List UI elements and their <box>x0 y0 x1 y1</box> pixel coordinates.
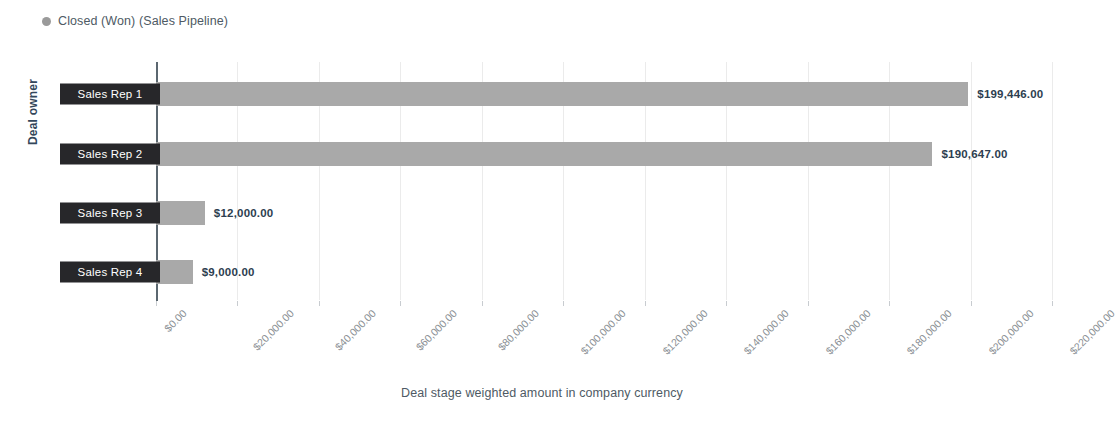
x-axis-tick <box>971 301 972 306</box>
y-axis-title: Deal owner <box>26 79 40 145</box>
category-label-badge[interactable]: Sales Rep 2 <box>60 144 160 165</box>
x-axis-tick-label: $60,000.00 <box>414 307 460 353</box>
x-axis-tick <box>889 301 890 306</box>
bar[interactable] <box>156 260 193 284</box>
x-axis-tick <box>726 301 727 306</box>
x-axis-tick <box>808 301 809 306</box>
x-axis-tick <box>400 301 401 306</box>
x-axis-tick <box>482 301 483 306</box>
x-axis-tick-label: $20,000.00 <box>251 307 297 353</box>
chart-legend[interactable]: Closed (Won) (Sales Pipeline) <box>42 12 228 30</box>
x-axis-tick-label: $140,000.00 <box>741 307 791 357</box>
x-axis-tick-label: $40,000.00 <box>332 307 378 353</box>
bar[interactable] <box>156 82 968 106</box>
x-axis-tick-label: $200,000.00 <box>986 307 1036 357</box>
x-axis-tick-label: $180,000.00 <box>904 307 954 357</box>
x-axis-tick-label: $80,000.00 <box>495 307 541 353</box>
gridline <box>971 62 972 300</box>
x-axis-tick-label: $100,000.00 <box>578 307 628 357</box>
x-axis-tick <box>1052 301 1053 306</box>
x-axis-tick-label: $120,000.00 <box>660 307 710 357</box>
x-axis-tick <box>645 301 646 306</box>
legend-dot-icon <box>42 17 51 26</box>
x-axis-tick <box>319 301 320 306</box>
category-label-badge[interactable]: Sales Rep 3 <box>60 203 160 224</box>
x-axis-tick-label: $220,000.00 <box>1067 307 1117 357</box>
bar[interactable] <box>156 201 205 225</box>
bar-value-label: $190,647.00 <box>941 148 1007 160</box>
x-axis-tick-label: $160,000.00 <box>823 307 873 357</box>
gridline <box>1052 62 1053 300</box>
legend-label: Closed (Won) (Sales Pipeline) <box>58 14 228 28</box>
bar-value-label: $9,000.00 <box>202 266 255 278</box>
x-axis-tick <box>237 301 238 306</box>
bar-value-label: $12,000.00 <box>214 207 274 219</box>
x-axis-tick <box>563 301 564 306</box>
category-label-badge[interactable]: Sales Rep 1 <box>60 84 160 105</box>
bar[interactable] <box>156 142 932 166</box>
bar-value-label: $199,446.00 <box>977 88 1043 100</box>
x-axis-title: Deal stage weighted amount in company cu… <box>0 386 1084 400</box>
x-axis-tick-label: $0.00 <box>162 307 189 334</box>
category-label-badge[interactable]: Sales Rep 4 <box>60 262 160 283</box>
x-axis-tick <box>156 301 157 306</box>
